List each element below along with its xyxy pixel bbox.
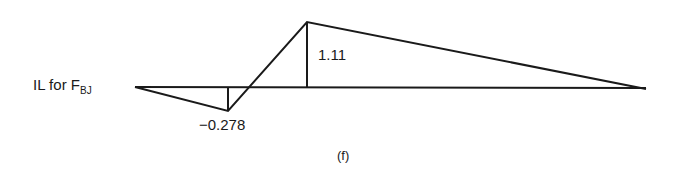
title-subscript: BJ [80, 85, 92, 96]
min-value-label: −0.278 [199, 116, 245, 133]
title-main: IL for F [33, 76, 80, 93]
influence-line-curve [135, 22, 646, 111]
influence-line-diagram: IL for FBJ −0.278 1.11 (f) [0, 0, 685, 180]
max-value-label: 1.11 [318, 46, 346, 63]
diagram-title: IL for FBJ [33, 76, 92, 96]
figure-caption: (f) [337, 148, 349, 163]
baseline [135, 87, 646, 88]
